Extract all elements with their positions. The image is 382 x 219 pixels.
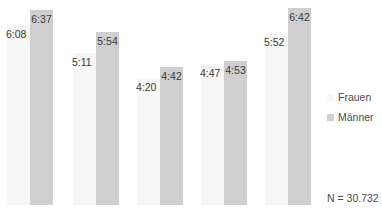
value-label-maenner: 5:54	[96, 35, 119, 47]
bar-chart: 6:086:375:115:544:204:424:474:535:526:42	[0, 0, 382, 219]
value-label-maenner: 6:37	[30, 13, 53, 25]
bar-frauen	[265, 33, 288, 205]
bar-frauen	[7, 25, 30, 205]
value-label-maenner: 4:42	[160, 70, 183, 82]
bar-frauen	[73, 53, 96, 205]
legend-swatch-maenner	[327, 114, 334, 121]
value-label-frauen: 4:20	[136, 81, 156, 93]
bar-maenner	[160, 67, 183, 205]
bar-maenner	[224, 61, 247, 205]
bar-maenner	[30, 10, 53, 205]
legend-swatch-frauen	[327, 94, 334, 101]
value-label-maenner: 6:42	[288, 11, 311, 23]
value-label-frauen: 5:11	[72, 56, 92, 68]
sample-size-note: N = 30.732	[327, 192, 379, 204]
legend: Frauen Männer	[327, 87, 374, 127]
value-label-frauen: 4:47	[200, 67, 220, 79]
bar-frauen	[201, 64, 224, 205]
value-label-frauen: 5:52	[264, 36, 284, 48]
legend-label-frauen: Frauen	[338, 91, 371, 103]
value-label-maenner: 4:53	[224, 64, 247, 76]
bar-maenner	[288, 8, 311, 205]
bar-maenner	[96, 32, 119, 205]
legend-item-maenner: Männer	[327, 107, 374, 127]
legend-item-frauen: Frauen	[327, 87, 374, 107]
value-label-frauen: 6:08	[6, 28, 26, 40]
bar-frauen	[137, 78, 160, 205]
legend-label-maenner: Männer	[338, 111, 374, 123]
